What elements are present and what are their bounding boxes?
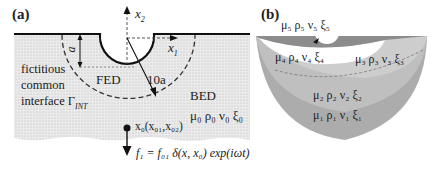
x2-arrow-icon <box>124 6 131 14</box>
force-arrow-icon <box>123 146 132 156</box>
force-equation: f₁ = f₀₁ δ(x, x₀) exp(iωt) <box>136 146 249 161</box>
interface-label-line3: interface ΓINT <box>21 94 88 111</box>
interface-label-line1: fictitious <box>21 62 65 77</box>
bed-params: μ₀ ρ₀ ν₀ ξ₀ <box>190 108 243 124</box>
interface-label-line2: common <box>21 78 65 93</box>
panel-a-canyon-geometry: (a) x2 x1 a FED 10a fictitious common in… <box>0 0 255 171</box>
panel-b-layered-model: (b) μ₅ ρ₅ ν₅ ξ₅ μ₄ ρ₄ ν₄ ξ₄ μ₃ ρ₃ ν₃ ξ₃ … <box>255 0 435 171</box>
layer-2-params: μ₂ ρ₂ ν₂ ξ₂ <box>313 88 362 103</box>
depth-label: a <box>64 47 79 53</box>
layer-5-params: μ₅ ρ₅ ν₅ ξ₅ <box>281 18 330 33</box>
axis-x2-label: x2 <box>135 6 145 24</box>
panel-a-label: (a) <box>12 6 30 23</box>
fed-label: FED <box>96 72 121 88</box>
panel-b-label: (b) <box>261 6 279 23</box>
layer-1-params: μ₁ ρ₁ ν₁ ξ₁ <box>313 108 362 123</box>
layer-3-params: μ₃ ρ₃ ν₃ ξ₃ <box>355 52 404 67</box>
axis-x1-label: x1 <box>168 40 178 58</box>
radius-label: 10a <box>147 72 166 88</box>
bed-label: BED <box>190 88 216 104</box>
layer-4-params: μ₄ ρ₄ ν₄ ξ₄ <box>275 50 324 65</box>
source-point-label: x₀(x₀₁,x₀₂) <box>135 120 183 132</box>
source-point-icon <box>124 125 131 132</box>
